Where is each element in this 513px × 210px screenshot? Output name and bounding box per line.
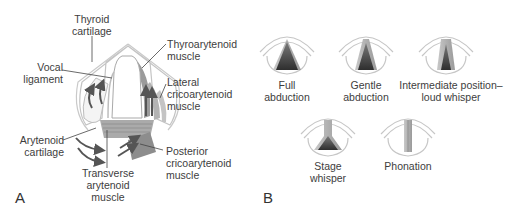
label-line: Posterior (166, 145, 231, 157)
label-line: Thyroid (72, 13, 112, 25)
label-gentle-abduction: Gentle abduction (336, 79, 396, 103)
label-line: cartilage (72, 25, 112, 37)
label-line: muscle (167, 50, 237, 62)
label-vocal-ligament: Vocal ligament (23, 61, 63, 85)
label-line: Thyroarytenoid (167, 38, 237, 50)
label-line: ligament (23, 73, 63, 85)
label-transverse-arytenoid-muscle: Transverse arytenoid muscle (80, 167, 136, 203)
label-line: Intermediate position– (396, 79, 506, 91)
label-stage-whisper: Stage whisper (298, 160, 358, 184)
label-line: Stage (298, 160, 358, 172)
label-lateral-cricoarytenoid-muscle: Lateral cricoarytenoid muscle (167, 76, 232, 112)
label-line: Lateral (167, 76, 232, 88)
label-line: abduction (336, 91, 396, 103)
label-full-abduction: Full abduction (257, 79, 317, 103)
label-phonation: Phonation (378, 160, 438, 172)
label-thyroid-cartilage: Thyroid cartilage (72, 13, 112, 37)
label-intermediate-position: Intermediate position– loud whisper (396, 79, 506, 103)
label-line: loud whisper (396, 91, 506, 103)
glottis-full-abduction (260, 37, 314, 74)
label-line: whisper (298, 172, 358, 184)
panel-letter-a: A (15, 189, 25, 206)
label-line: arytenoid (80, 179, 136, 191)
label-line: Phonation (378, 160, 438, 172)
label-arytenoid-cartilage: Arytenoid cartilage (16, 134, 64, 158)
label-line: Vocal (23, 61, 63, 73)
label-line: muscle (80, 191, 136, 203)
glottis-stage-whisper (301, 119, 355, 156)
label-line: cricoarytenoid (167, 88, 232, 100)
label-line: muscle (166, 169, 231, 181)
label-line: Transverse (80, 167, 136, 179)
label-line: Gentle (336, 79, 396, 91)
panel-a-anatomy (62, 36, 180, 168)
glottis-gentle-abduction (339, 37, 393, 74)
label-line: Full (257, 79, 317, 91)
label-thyroarytenoid-muscle: Thyroarytenoid muscle (167, 38, 237, 62)
label-line: Arytenoid (16, 134, 64, 146)
label-posterior-cricoarytenoid-muscle: Posterior cricoarytenoid muscle (166, 145, 231, 181)
panel-letter-b: B (263, 189, 273, 206)
glottis-phonation (381, 119, 435, 156)
label-line: cricoarytenoid (166, 157, 231, 169)
glottis-intermediate-position (419, 37, 473, 74)
label-line: muscle (167, 100, 232, 112)
label-line: cartilage (16, 146, 64, 158)
label-line: abduction (257, 91, 317, 103)
